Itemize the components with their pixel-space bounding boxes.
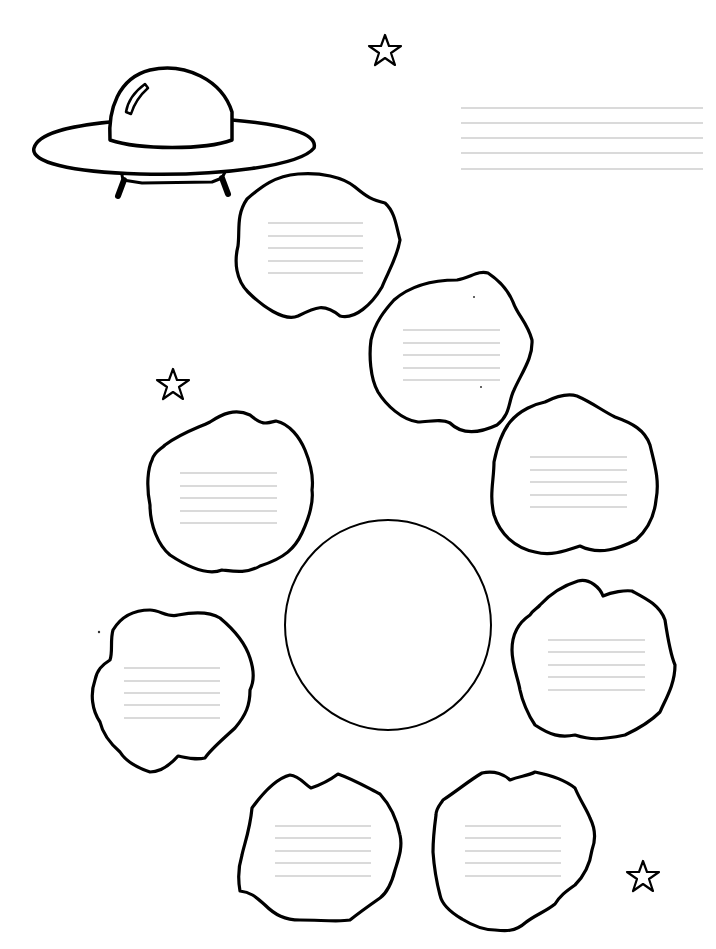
speck [480,386,482,388]
blob-3-outline [492,395,658,554]
blob-2[interactable] [370,272,532,431]
blob-7[interactable] [239,774,401,921]
blob-6-outline [512,580,675,738]
speck [473,296,475,298]
blob-8[interactable] [433,772,594,931]
star-icon-bottom-right [627,861,659,891]
ufo-icon [34,68,315,196]
blob-1-outline [236,174,400,318]
blob-3[interactable] [492,395,658,554]
writing-blobs [92,174,675,931]
blob-1[interactable] [236,174,400,318]
blob-6[interactable] [512,580,675,738]
star-icon-left [157,369,189,399]
blob-2-outline [370,272,532,431]
blob-4-outline [148,412,313,572]
blob-4[interactable] [148,412,313,572]
blob-7-outline [239,774,401,921]
center-circle[interactable] [285,520,491,730]
worksheet-canvas [0,0,716,949]
speck [98,631,100,633]
star-icon-top [369,35,401,65]
title-writing-lines[interactable] [461,108,703,169]
blob-5-outline [92,610,253,772]
blob-5[interactable] [92,610,253,772]
